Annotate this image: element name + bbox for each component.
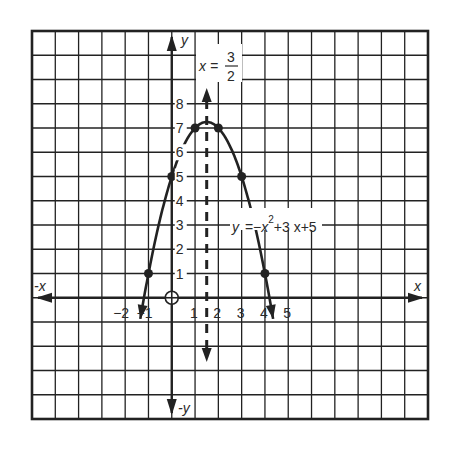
y-tick-label: 6 xyxy=(176,144,184,160)
neg-x-axis-label: -x xyxy=(34,278,47,294)
y-tick-label: 2 xyxy=(176,241,184,257)
data-point xyxy=(144,269,153,278)
x-tick-label: −1 xyxy=(136,305,152,321)
y-tick-label: 8 xyxy=(176,96,184,112)
y-tick-label: 4 xyxy=(176,193,184,209)
y-tick-label: 1 xyxy=(176,266,184,282)
parabola-graph: −2−11234512345678 y -y x -x x = 3 2 y =−… xyxy=(0,0,455,452)
x-tick-label: 5 xyxy=(283,305,291,321)
x-tick-label: −2 xyxy=(113,305,129,321)
symmetry-label-numerator: 3 xyxy=(227,49,235,65)
x-tick-label: 4 xyxy=(260,305,268,321)
data-point xyxy=(237,172,246,181)
x-tick-label: 2 xyxy=(213,305,221,321)
data-point xyxy=(191,124,200,133)
symmetry-label-lhs: x = xyxy=(198,58,218,74)
y-tick-label: 5 xyxy=(176,169,184,185)
y-tick-label: 7 xyxy=(176,120,184,136)
y-tick-label: 3 xyxy=(176,217,184,233)
x-tick-label: 1 xyxy=(190,305,198,321)
data-point xyxy=(260,269,269,278)
y-axis-label: y xyxy=(180,32,189,48)
data-point xyxy=(214,124,223,133)
x-axis-label: x xyxy=(413,278,422,294)
neg-y-axis-label: -y xyxy=(178,400,191,416)
symmetry-label-denominator: 2 xyxy=(227,68,235,84)
x-tick-label: 3 xyxy=(237,305,245,321)
